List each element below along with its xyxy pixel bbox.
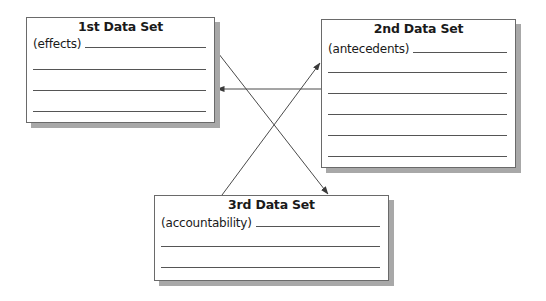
subtitle-row: (antecedents)	[328, 42, 507, 56]
blank-line	[413, 52, 507, 53]
blank-line	[33, 111, 206, 112]
data-set-box-2nd: 2nd Data Set (antecedents)	[321, 19, 516, 168]
arrow-1st-to-3rd	[215, 49, 328, 194]
blank-line	[328, 93, 507, 94]
blank-line	[33, 69, 206, 70]
box-subtitle: (accountability)	[161, 216, 252, 230]
box-title: 3rd Data Set	[155, 197, 388, 212]
subtitle-row: (accountability)	[161, 216, 380, 230]
box-title: 1st Data Set	[27, 19, 214, 34]
blank-line	[161, 267, 380, 268]
blank-line	[33, 90, 206, 91]
arrow-3rd-to-2nd	[222, 63, 320, 195]
data-set-box-1st: 1st Data Set (effects)	[26, 17, 215, 123]
blank-line	[328, 114, 507, 115]
blank-line	[256, 226, 380, 227]
box-subtitle: (antecedents)	[328, 42, 409, 56]
subtitle-row: (effects)	[33, 37, 206, 51]
data-set-box-3rd: 3rd Data Set (accountability)	[154, 195, 389, 281]
box-title: 2nd Data Set	[322, 21, 515, 36]
blank-line	[328, 156, 507, 157]
box-subtitle: (effects)	[33, 37, 81, 51]
blank-line	[161, 246, 380, 247]
blank-line	[328, 135, 507, 136]
blank-line	[85, 47, 206, 48]
blank-line	[328, 72, 507, 73]
